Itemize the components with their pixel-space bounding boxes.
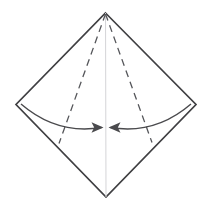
origami-fold-diagram: [0, 0, 212, 212]
center-crease-line: [106, 13, 107, 197]
fold-diagram-container: [0, 0, 212, 212]
